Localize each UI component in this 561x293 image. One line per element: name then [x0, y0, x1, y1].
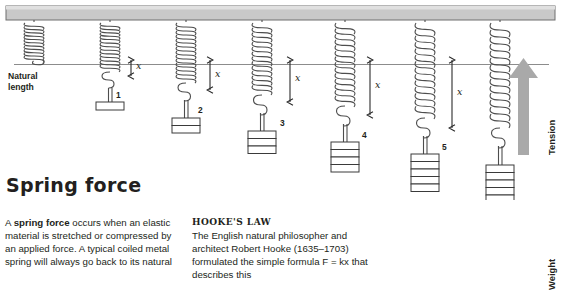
spring-natural: [24, 20, 44, 65]
tension-label: Tension: [546, 120, 557, 155]
ceiling-bar: [6, 6, 555, 20]
left-column: A spring force occurs when an elastic ma…: [5, 216, 183, 268]
right-column: HOOKE'S LAW The English natural philosop…: [192, 216, 374, 281]
spring-6: [490, 20, 510, 165]
weight-stack-2: [172, 118, 200, 133]
extension-label-4: x: [375, 79, 380, 90]
spring-2: [176, 20, 196, 118]
extension-label-1: x: [136, 60, 141, 71]
natural-length-line1: Natural: [8, 71, 38, 81]
spring-5: [415, 20, 435, 154]
tension-arrow: [509, 58, 538, 155]
page-title: Spring force: [6, 174, 141, 196]
para-pre: A: [5, 217, 14, 228]
natural-length-line2: length: [8, 82, 34, 92]
article-section: Spring force A spring force occurs when …: [0, 168, 561, 293]
extension-label-5: x: [457, 86, 462, 97]
spring-number-4: 4: [362, 130, 367, 140]
spring-force-paragraph: A spring force occurs when an elastic ma…: [5, 216, 183, 268]
extension-label-2: x: [215, 68, 220, 79]
spring-force-term: spring force: [14, 217, 70, 228]
hookes-law-paragraph: The English natural philosopher and arch…: [192, 229, 374, 281]
weight-stack-3: [248, 131, 276, 154]
spring-number-3: 3: [280, 118, 285, 128]
spring-number-1: 1: [116, 90, 121, 100]
page-root: Natural length x x x x x 1 2 3 4 5 Tensi…: [0, 0, 561, 293]
weight-stack-1: [96, 102, 124, 110]
hookes-law-subheading: HOOKE'S LAW: [192, 216, 374, 229]
spring-number-2: 2: [198, 105, 203, 115]
spring-3: [252, 20, 272, 131]
extension-label-3: x: [295, 72, 300, 83]
natural-length-label: Natural length: [8, 71, 38, 92]
spring-number-5: 5: [442, 142, 447, 152]
spring-4: [335, 20, 355, 142]
